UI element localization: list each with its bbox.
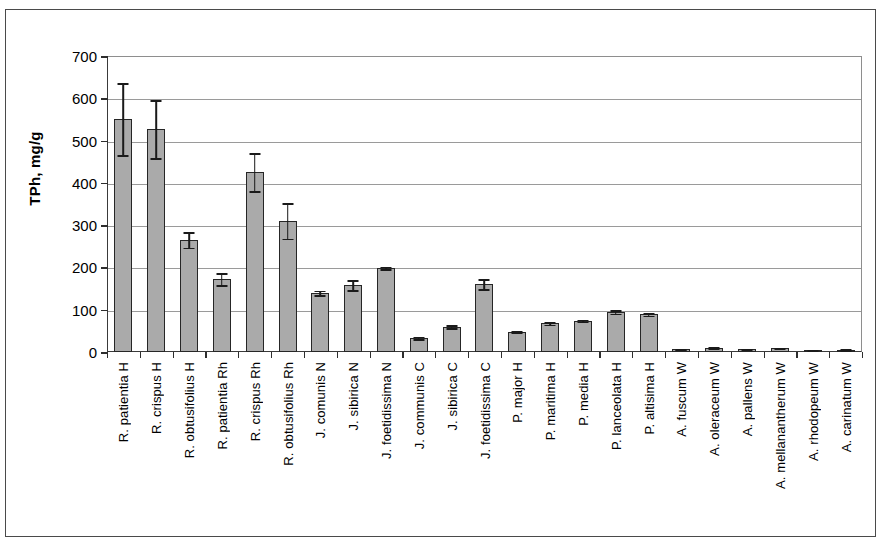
bar-group — [796, 56, 829, 352]
x-tick-mark — [796, 352, 797, 358]
bar — [475, 284, 493, 352]
x-tick-label: A. carinatum W — [839, 362, 854, 452]
x-tick-mark — [829, 352, 830, 358]
error-bar-cap-bottom — [118, 155, 129, 157]
x-tick-mark — [205, 352, 206, 358]
x-tick-label: A. fuscum W — [674, 362, 689, 437]
x-tick-label: P. lanceolata H — [609, 362, 624, 450]
x-tick-mark — [435, 352, 436, 358]
bar-group — [370, 56, 403, 352]
x-tick-label: J. foetidissima C — [478, 362, 493, 459]
figure-frame: TPh, mg/g 0100200300400500600700 R. pati… — [5, 9, 876, 537]
error-bar-cap-top — [216, 273, 227, 275]
error-bar-cap-top — [381, 267, 392, 269]
y-tick-label: 200 — [53, 259, 97, 276]
error-bar-cap-top — [348, 280, 359, 282]
error-bar-cap-bottom — [184, 248, 195, 250]
error-bar-cap-bottom — [381, 269, 392, 271]
error-bar-line — [254, 153, 256, 191]
y-tick-label: 0 — [53, 344, 97, 361]
bar-group — [501, 56, 534, 352]
error-bar-cap-top — [249, 153, 260, 155]
x-tick-label: P. media H — [576, 362, 591, 426]
error-bar-line — [123, 83, 125, 155]
x-tick-mark — [731, 352, 732, 358]
bar-group — [173, 56, 206, 352]
bar-group — [304, 56, 337, 352]
error-bar-line — [188, 232, 190, 247]
x-axis-labels: R. patientia HR. crispus HR. obtusifoliu… — [107, 362, 862, 542]
x-tick-mark — [402, 352, 403, 358]
bar-group — [731, 56, 764, 352]
bar-group — [468, 56, 501, 352]
x-tick-label: A. rhodopeum W — [806, 362, 821, 461]
x-tick-label: R. crispus Rh — [248, 362, 263, 441]
error-bar-cap-bottom — [348, 290, 359, 292]
error-bar-cap-top — [315, 291, 326, 293]
x-tick-mark — [370, 352, 371, 358]
bar-group — [632, 56, 665, 352]
x-tick-label: A. pallens W — [740, 362, 755, 436]
x-tick-label: R. obtusifolius Rh — [281, 362, 296, 466]
x-tick-mark — [107, 352, 108, 358]
y-tick-label: 400 — [53, 174, 97, 191]
error-bar-cap-bottom — [577, 322, 588, 324]
x-tick-mark — [304, 352, 305, 358]
error-bar-cap-bottom — [709, 348, 720, 350]
error-bar-cap-bottom — [774, 349, 785, 351]
bar — [246, 172, 264, 352]
bar — [377, 268, 395, 352]
x-tick-label: J. comunis N — [313, 362, 328, 438]
chart-screenshot: TPh, mg/g 0100200300400500600700 R. pati… — [0, 0, 885, 548]
error-bar-cap-top — [413, 337, 424, 339]
x-tick-mark — [764, 352, 765, 358]
error-bar-cap-top — [610, 310, 621, 312]
error-bar-cap-bottom — [151, 158, 162, 160]
bar — [640, 314, 658, 352]
bar — [344, 285, 362, 352]
bar-group — [534, 56, 567, 352]
x-tick-label: J. communis C — [412, 362, 427, 449]
bar-group — [337, 56, 370, 352]
bar-group — [698, 56, 731, 352]
x-tick-label: J. sibirica C — [445, 362, 460, 430]
bar — [147, 129, 165, 352]
error-bar-cap-bottom — [216, 285, 227, 287]
error-bar-line — [221, 273, 223, 285]
y-axis-title: TPh, mg/g — [26, 79, 43, 259]
error-bar-cap-top — [151, 100, 162, 102]
error-bar-cap-bottom — [545, 325, 556, 327]
bar-group — [829, 56, 862, 352]
bar-group — [402, 56, 435, 352]
error-bar-cap-bottom — [479, 289, 490, 291]
error-bar-cap-top — [545, 322, 556, 324]
error-bar-cap-bottom — [610, 314, 621, 316]
x-tick-mark — [271, 352, 272, 358]
bar-group — [238, 56, 271, 352]
x-tick-mark — [534, 352, 535, 358]
bar — [443, 327, 461, 352]
x-tick-mark — [567, 352, 568, 358]
x-tick-label: R. patientia Rh — [215, 362, 230, 450]
bar — [279, 221, 297, 352]
x-tick-mark — [337, 352, 338, 358]
bar-group — [599, 56, 632, 352]
y-tick-label: 500 — [53, 132, 97, 149]
error-bar-cap-bottom — [249, 191, 260, 193]
x-tick-label: R. obtusifolius H — [182, 362, 197, 458]
bar — [311, 293, 329, 352]
x-tick-mark — [468, 352, 469, 358]
x-tick-mark — [140, 352, 141, 358]
x-tick-mark — [698, 352, 699, 358]
error-bar-cap-top — [184, 232, 195, 234]
bar-group — [567, 56, 600, 352]
x-tick-label: A. mellanantherum W — [773, 362, 788, 489]
y-tick-label: 600 — [53, 90, 97, 107]
x-tick-label: P. maritima H — [543, 362, 558, 440]
error-bar-cap-top — [118, 83, 129, 85]
y-tick-label: 700 — [53, 48, 97, 65]
x-tick-label: J. foetidissima N — [379, 362, 394, 459]
bar-group — [205, 56, 238, 352]
y-tick-label: 300 — [53, 217, 97, 234]
x-tick-label: A. oleraceum W — [707, 362, 722, 456]
